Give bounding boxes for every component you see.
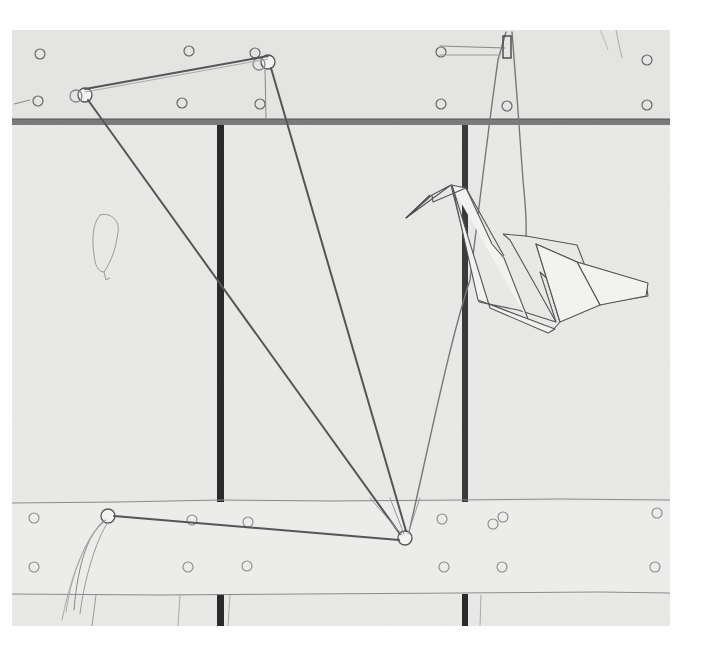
top-beam bbox=[12, 30, 670, 122]
top-rail bbox=[12, 119, 670, 125]
vertical-post-left bbox=[217, 125, 224, 503]
pencil-drawing bbox=[0, 0, 703, 658]
vertical-post-right bbox=[462, 125, 468, 503]
pulley-bottom-left bbox=[101, 509, 115, 523]
vertical-post-left-lower bbox=[217, 594, 224, 626]
vertical-post-right-lower bbox=[462, 594, 468, 626]
